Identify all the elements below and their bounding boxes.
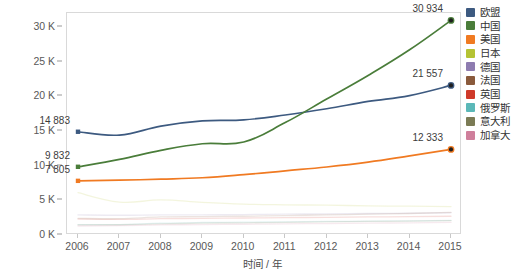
x-tick-mark bbox=[201, 234, 202, 238]
plot-area bbox=[66, 12, 461, 234]
legend-label: 意大利 bbox=[480, 116, 510, 127]
value-label: 30 934 bbox=[412, 3, 443, 14]
legend-label: 日本 bbox=[480, 48, 500, 59]
legend: 欧盟中国美国日本德国法国英国俄罗斯意大利加拿大 bbox=[466, 6, 525, 141]
value-label: 21 557 bbox=[412, 68, 443, 79]
x-tick-label: 2008 bbox=[148, 240, 171, 252]
x-tick-label: 2013 bbox=[355, 240, 378, 252]
legend-swatch-icon bbox=[466, 103, 475, 112]
value-label: 7 805 bbox=[45, 163, 70, 174]
x-tick-label: 2014 bbox=[397, 240, 420, 252]
series-line bbox=[78, 85, 451, 135]
x-tick-mark bbox=[450, 234, 451, 238]
legend-item-7[interactable]: 英国 bbox=[466, 88, 525, 100]
series-end-marker bbox=[449, 83, 453, 87]
series-end-marker bbox=[449, 18, 453, 22]
x-axis-ticks: 2006200720082009201020112012201320142015 bbox=[66, 234, 461, 254]
legend-swatch-icon bbox=[466, 35, 475, 44]
x-tick-label: 2012 bbox=[314, 240, 337, 252]
legend-swatch-icon bbox=[466, 62, 475, 71]
legend-label: 德国 bbox=[480, 62, 500, 73]
legend-label: 中国 bbox=[480, 21, 500, 32]
x-tick-label: 2011 bbox=[273, 240, 296, 252]
legend-swatch-icon bbox=[466, 8, 475, 17]
x-tick-label: 2009 bbox=[190, 240, 213, 252]
legend-label: 俄罗斯 bbox=[480, 103, 510, 114]
value-label: 12 333 bbox=[412, 132, 443, 143]
line-chart: 论文数量 / 篇 0 K5 K10 K15 K20 K25 K30 K 2006… bbox=[0, 0, 525, 274]
series-start-marker bbox=[76, 165, 80, 169]
legend-item-10[interactable]: 加拿大 bbox=[466, 129, 525, 141]
series-line bbox=[78, 20, 451, 166]
x-tick-mark bbox=[77, 234, 78, 238]
legend-swatch-icon bbox=[466, 49, 475, 58]
legend-item-6[interactable]: 法国 bbox=[466, 74, 525, 86]
legend-swatch-icon bbox=[466, 90, 475, 99]
x-tick-mark bbox=[409, 234, 410, 238]
y-tick-mark bbox=[57, 129, 62, 130]
legend-item-1[interactable]: 欧盟 bbox=[466, 6, 525, 18]
series-line bbox=[78, 149, 451, 180]
series-start-marker bbox=[76, 179, 80, 183]
legend-item-9[interactable]: 意大利 bbox=[466, 116, 525, 128]
y-tick-label: 5 K bbox=[39, 193, 55, 205]
y-tick-label: 25 K bbox=[33, 55, 55, 67]
y-tick-mark bbox=[57, 60, 62, 61]
legend-label: 加拿大 bbox=[480, 130, 510, 141]
series-2 bbox=[76, 17, 455, 169]
legend-label: 美国 bbox=[480, 34, 500, 45]
y-tick-mark bbox=[57, 25, 62, 26]
y-tick-mark bbox=[57, 234, 62, 235]
x-tick-mark bbox=[326, 234, 327, 238]
x-tick-label: 2015 bbox=[438, 240, 461, 252]
x-tick-mark bbox=[243, 234, 244, 238]
y-tick-mark bbox=[57, 199, 62, 200]
y-tick-label: 30 K bbox=[33, 20, 55, 32]
legend-label: 欧盟 bbox=[480, 7, 500, 18]
legend-swatch-icon bbox=[466, 21, 475, 30]
series-3 bbox=[76, 146, 455, 183]
series-4 bbox=[78, 193, 451, 207]
series-start-marker bbox=[76, 130, 80, 134]
x-axis-title: 时间 / 年 bbox=[0, 256, 525, 271]
x-tick-mark bbox=[284, 234, 285, 238]
y-tick-mark bbox=[57, 95, 62, 96]
legend-item-8[interactable]: 俄罗斯 bbox=[466, 102, 525, 114]
series-1 bbox=[76, 82, 455, 135]
value-label: 9 832 bbox=[45, 149, 70, 160]
legend-item-2[interactable]: 中国 bbox=[466, 20, 525, 32]
legend-item-5[interactable]: 德国 bbox=[466, 61, 525, 73]
y-tick-label: 15 K bbox=[33, 124, 55, 136]
x-tick-label: 2007 bbox=[107, 240, 130, 252]
y-tick-label: 20 K bbox=[33, 89, 55, 101]
x-tick-mark bbox=[160, 234, 161, 238]
legend-label: 法国 bbox=[480, 75, 500, 86]
legend-item-4[interactable]: 日本 bbox=[466, 47, 525, 59]
legend-label: 英国 bbox=[480, 89, 500, 100]
legend-item-3[interactable]: 美国 bbox=[466, 33, 525, 45]
legend-swatch-icon bbox=[466, 117, 475, 126]
value-label: 14 883 bbox=[39, 114, 70, 125]
x-tick-mark bbox=[118, 234, 119, 238]
legend-swatch-icon bbox=[466, 76, 475, 85]
y-tick-label: 0 K bbox=[39, 228, 55, 240]
legend-swatch-icon bbox=[466, 131, 475, 140]
series-line bbox=[78, 193, 451, 207]
x-tick-label: 2010 bbox=[231, 240, 254, 252]
x-tick-mark bbox=[367, 234, 368, 238]
x-tick-label: 2006 bbox=[65, 240, 88, 252]
series-canvas bbox=[67, 13, 462, 235]
series-end-marker bbox=[449, 147, 453, 151]
